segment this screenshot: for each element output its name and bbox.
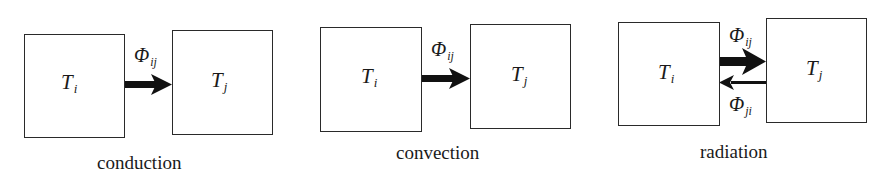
temperature-subscript: j <box>524 73 528 88</box>
conduction-caption: conduction <box>97 152 181 174</box>
radiation-caption: radiation <box>700 141 768 163</box>
radiation-forward-flux-label: Φij <box>729 24 752 50</box>
temperature-subscript: i <box>671 71 675 86</box>
temperature-symbol: T <box>361 64 373 88</box>
temperature-subscript: i <box>74 81 78 96</box>
temperature-symbol: T <box>511 62 523 86</box>
convection-flux-label: Φij <box>431 38 454 64</box>
conduction-flux-label: Φij <box>134 44 157 70</box>
temperature-symbol: T <box>61 70 73 94</box>
temperature-subscript: j <box>224 79 228 94</box>
flux-subscript: ji <box>745 104 752 118</box>
flux-symbol: Φ <box>729 93 744 115</box>
flux-subscript: ij <box>447 49 454 63</box>
convection-target-label: Tj <box>511 62 527 89</box>
radiation-backward-arrow-icon <box>719 75 766 90</box>
radiation-forward-arrow-icon <box>719 48 766 75</box>
radiation-source-label: Ti <box>658 60 674 87</box>
convection-caption: convection <box>396 142 479 164</box>
radiation-backward-flux-label: Φji <box>729 93 752 119</box>
temperature-symbol: T <box>806 56 818 80</box>
temperature-subscript: j <box>819 67 823 82</box>
flux-symbol: Φ <box>729 24 744 46</box>
radiation-target-label: Tj <box>806 56 822 83</box>
temperature-symbol: T <box>658 60 670 84</box>
conduction-flow-arrow-icon <box>125 74 172 95</box>
convection-flow-arrow-icon <box>421 68 470 89</box>
flux-subscript: ij <box>150 55 157 69</box>
flux-symbol: Φ <box>134 44 149 66</box>
flux-symbol: Φ <box>431 38 446 60</box>
conduction-target-label: Tj <box>211 68 227 95</box>
temperature-subscript: i <box>374 75 378 90</box>
conduction-source-label: Ti <box>61 70 77 97</box>
temperature-symbol: T <box>211 68 223 92</box>
convection-source-label: Ti <box>361 64 377 91</box>
flux-subscript: ij <box>745 35 752 49</box>
